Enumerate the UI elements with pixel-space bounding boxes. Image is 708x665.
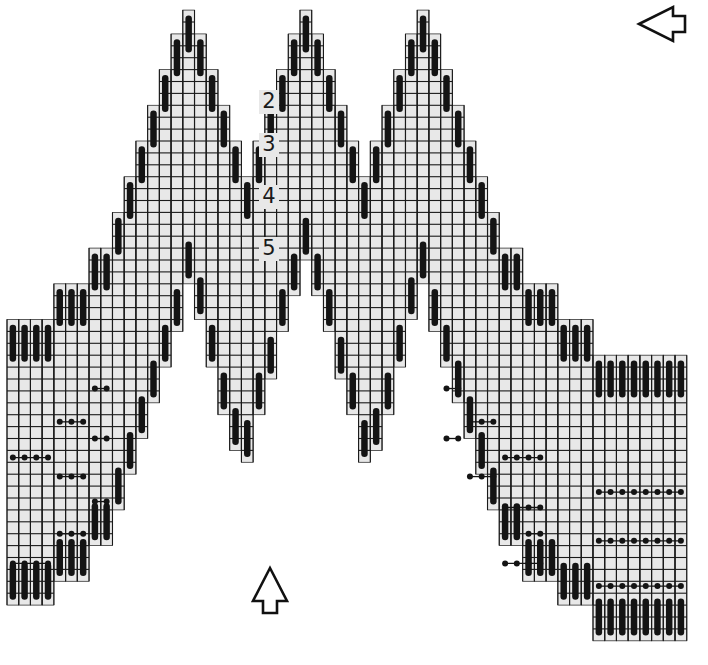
row-label-5: 5 [262, 236, 275, 260]
row-label-4: 4 [262, 184, 275, 208]
row-label-3: 3 [262, 132, 275, 156]
stitch-chart: 2 3 4 5 [0, 0, 708, 665]
arrow-left-icon [639, 7, 685, 41]
row-label-2: 2 [262, 89, 275, 113]
arrow-up-icon [253, 568, 287, 613]
